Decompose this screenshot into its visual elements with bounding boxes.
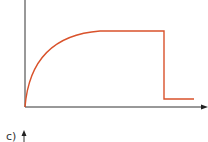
next-panel-y-arrow-icon — [22, 130, 27, 136]
chart — [0, 0, 208, 142]
x-axis-arrow-icon — [201, 105, 208, 110]
panel-label: c) — [6, 130, 16, 142]
series-curve — [25, 31, 194, 107]
